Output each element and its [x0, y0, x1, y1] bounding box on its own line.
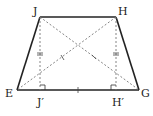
- solid-edges: [17, 17, 139, 90]
- diagonal-he: [17, 17, 116, 90]
- label-h: H: [118, 5, 128, 18]
- dashed-segments: [17, 17, 139, 90]
- single-tick-jg: [92, 55, 96, 59]
- diagonal-jg: [40, 17, 139, 90]
- edge-ej: [17, 17, 40, 90]
- edge-hg: [116, 17, 139, 90]
- label-j: J: [32, 5, 37, 18]
- label-g: G: [141, 87, 150, 100]
- trapezoid-diagram: J H E G J′ H′: [0, 0, 153, 116]
- tick-marks: [37, 53, 119, 93]
- label-j-prime: J′: [36, 96, 44, 109]
- label-h-prime: H′: [112, 96, 125, 109]
- label-e: E: [5, 87, 13, 100]
